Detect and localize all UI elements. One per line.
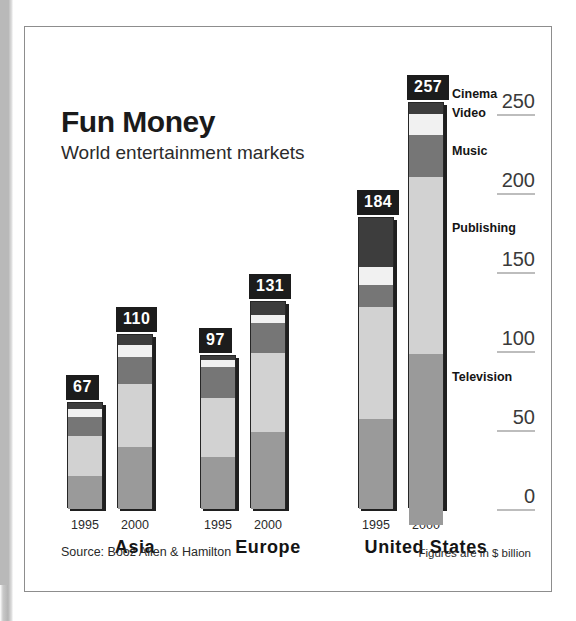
bar-segment-music xyxy=(118,357,152,384)
y-axis-tick-label: 250 xyxy=(497,91,535,114)
source-note: Source: Booz Allen & Hamilton xyxy=(61,545,231,559)
y-axis-tick-label: 200 xyxy=(497,170,535,193)
bar-total-badge: 257 xyxy=(407,75,449,100)
bar-segment-publishing xyxy=(409,177,443,354)
y-axis-tick-rule xyxy=(497,430,535,432)
bar-stack xyxy=(358,217,394,508)
bar-year-label: 2000 xyxy=(110,518,160,532)
bar-segment-music xyxy=(409,135,443,178)
chart-subtitle: World entertainment markets xyxy=(61,143,305,162)
chart-figure: Fun Money World entertainment markets 25… xyxy=(24,26,552,592)
callout-publishing: Publishing xyxy=(452,221,516,235)
bar-united-states-1995[interactable] xyxy=(358,217,394,508)
y-axis-tick: 250 xyxy=(497,91,535,116)
bar-stack xyxy=(408,102,444,508)
y-axis-tick: 150 xyxy=(497,249,535,274)
bar-stack xyxy=(200,355,236,508)
bar-segment-music xyxy=(201,367,235,399)
bar-year-label: 1995 xyxy=(60,518,110,532)
bar-segment-television xyxy=(68,476,102,509)
bar-total-badge: 184 xyxy=(357,190,399,215)
bar-segment-video xyxy=(359,267,393,284)
bar-segment-publishing xyxy=(118,384,152,447)
bar-segment-publishing xyxy=(359,307,393,419)
y-axis-tick-label: 100 xyxy=(497,328,535,351)
y-axis-tick: 200 xyxy=(497,170,535,195)
bar-segment-music xyxy=(251,323,285,353)
bar-year-label: 2000 xyxy=(243,518,293,532)
bar-segment-television xyxy=(409,354,443,525)
bar-total-badge: 110 xyxy=(116,307,157,332)
bar-year-label: 1995 xyxy=(193,518,243,532)
bar-segment-television xyxy=(201,457,235,509)
y-axis-tick: 50 xyxy=(497,407,535,432)
y-axis-tick-rule xyxy=(497,114,535,116)
title-block: Fun Money World entertainment markets xyxy=(61,107,305,162)
bar-segment-video xyxy=(68,409,102,417)
y-axis-tick-rule xyxy=(497,193,535,195)
callout-video: Video xyxy=(452,106,486,120)
callout-television: Television xyxy=(452,370,512,384)
bar-segment-video xyxy=(118,345,152,358)
bar-segment-cinema xyxy=(118,335,152,344)
bar-segment-television xyxy=(118,447,152,509)
bar-segment-music xyxy=(68,417,102,436)
units-note: Figures are in $ billion xyxy=(418,547,531,559)
bar-year-label: 1995 xyxy=(351,518,401,532)
page-gutter-strip xyxy=(0,0,9,585)
bar-united-states-2000[interactable] xyxy=(408,102,444,508)
y-axis-tick-label: 150 xyxy=(497,249,535,272)
bar-stack xyxy=(117,334,153,508)
bar-segment-cinema xyxy=(359,218,393,267)
bar-total-badge: 67 xyxy=(66,375,99,400)
bar-total-badge: 131 xyxy=(249,274,291,299)
callout-music: Music xyxy=(452,144,487,158)
bar-segment-publishing xyxy=(251,353,285,432)
chart-plot-area: Fun Money World entertainment markets 25… xyxy=(25,27,553,593)
y-axis-tick-rule xyxy=(497,509,535,511)
bar-stack xyxy=(67,402,103,508)
page-title: Fun Money xyxy=(61,107,305,137)
bar-segment-television xyxy=(251,432,285,509)
y-axis-tick-label: 0 xyxy=(497,486,535,509)
bar-segment-publishing xyxy=(201,398,235,456)
bar-asia-2000[interactable] xyxy=(117,334,153,508)
bar-europe-1995[interactable] xyxy=(200,355,236,508)
bar-segment-video xyxy=(409,114,443,135)
bar-segment-publishing xyxy=(68,436,102,476)
y-axis-tick-rule xyxy=(497,272,535,274)
bar-europe-2000[interactable] xyxy=(250,301,286,508)
bar-segment-video xyxy=(251,315,285,323)
y-axis-tick: 100 xyxy=(497,328,535,353)
bar-segment-cinema xyxy=(251,302,285,315)
y-axis-tick: 0 xyxy=(497,486,535,511)
callout-cinema: Cinema xyxy=(452,87,497,101)
bar-segment-television xyxy=(359,419,393,509)
bar-segment-cinema xyxy=(409,103,443,114)
y-axis-tick-label: 50 xyxy=(497,407,535,430)
bar-total-badge: 97 xyxy=(199,328,232,353)
y-axis-tick-rule xyxy=(497,351,535,353)
bar-stack xyxy=(250,301,286,508)
bar-asia-1995[interactable] xyxy=(67,402,103,508)
bar-segment-music xyxy=(359,285,393,307)
